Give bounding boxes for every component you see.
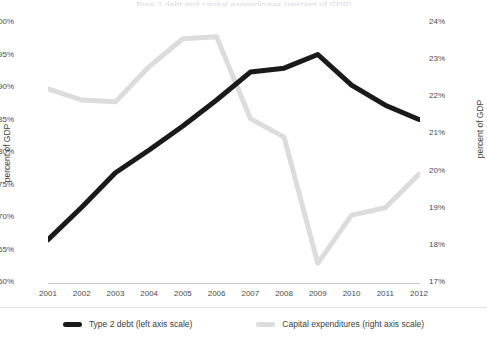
legend-swatch-icon [256, 322, 275, 327]
left-axis-tick-label: 65% [0, 245, 14, 255]
right-axis-tick-label: 22% [429, 91, 469, 101]
right-axis-tick-label: 21% [429, 128, 469, 138]
legend-divider [0, 307, 487, 308]
legend: Type 2 debt (left axis scale) Capital ex… [0, 312, 487, 336]
chart-figure: Type 2 debt and capital expenditures (pe… [0, 0, 487, 340]
left-axis-tick-label: 90% [0, 82, 14, 92]
series-line-capital-expenditures [48, 37, 419, 264]
right-axis-tick-label: 18% [429, 240, 469, 250]
chart-title-clipped: Type 2 debt and capital expenditures (pe… [0, 0, 487, 6]
plot-area [48, 22, 420, 283]
legend-label: Type 2 debt (left axis scale) [89, 319, 192, 329]
plot-svg [48, 22, 420, 283]
left-axis-tick-label: 60% [0, 277, 14, 287]
right-axis-tick-label: 23% [429, 54, 469, 64]
page-title: Type 2 debt and capital expenditures (pe… [135, 0, 351, 6]
left-axis-label: percent of GDP [2, 113, 12, 193]
legend-item-capital-expenditures[interactable]: Capital expenditures (right axis scale) [256, 319, 424, 329]
left-axis-tick-label: 95% [0, 50, 14, 60]
left-axis-tick-label: 70% [0, 212, 14, 222]
x-axis-line [48, 283, 420, 284]
x-axis-tick-label: 2012 [399, 289, 439, 299]
right-axis-tick-label: 17% [429, 277, 469, 287]
legend-item-type2-debt[interactable]: Type 2 debt (left axis scale) [63, 319, 192, 329]
right-axis-tick-label: 19% [429, 203, 469, 213]
right-axis-tick-label: 24% [429, 17, 469, 27]
legend-swatch-icon [63, 322, 82, 327]
left-axis-tick-label: 100% [0, 17, 14, 27]
right-axis-tick-label: 20% [429, 166, 469, 176]
right-axis-label: percent of GDP [475, 89, 485, 169]
legend-label: Capital expenditures (right axis scale) [282, 319, 424, 329]
